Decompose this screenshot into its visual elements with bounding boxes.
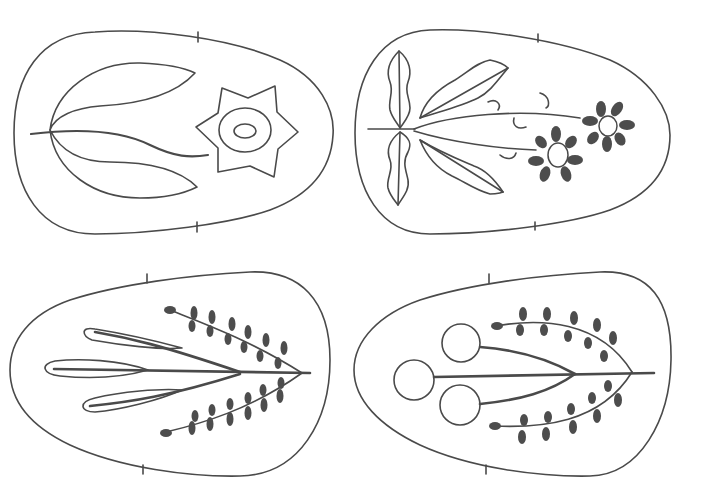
star-flower (196, 86, 298, 177)
egg-outline (14, 31, 333, 234)
egg-outline (355, 30, 670, 234)
stem (31, 131, 208, 157)
figure-canvas: Four egg-shaped outline templates with f… (0, 0, 709, 500)
panel-bottom-left (10, 272, 330, 476)
sprig-leaves-upper (516, 307, 617, 362)
panel-bottom-right (354, 272, 671, 476)
panel-top-right (355, 30, 670, 234)
daisy-upper (582, 100, 635, 152)
daisy-lower (528, 126, 583, 183)
leaf-upper (50, 63, 195, 130)
sprig-leaves-lower (518, 380, 622, 444)
leaf-lower (50, 130, 197, 198)
panel-top-left (14, 31, 333, 234)
egg-outline (10, 272, 330, 476)
